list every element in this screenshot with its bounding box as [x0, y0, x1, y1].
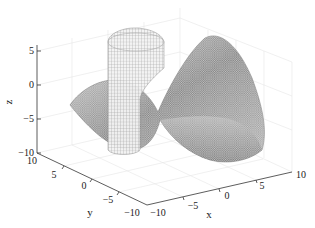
z-tick-label: 0 [29, 79, 34, 90]
x-axis-label: x [206, 208, 212, 220]
x-tick-label: −5 [188, 200, 199, 211]
y-tick-label: 0 [82, 180, 87, 191]
z-tick-label: 5 [29, 45, 34, 56]
z-tick-label: −5 [23, 113, 34, 124]
surface-plot-3d: 5 0 −5 −10 z 10 5 0 −5 −10 y −10 −5 0 5 … [0, 0, 315, 228]
y-ticks [62, 166, 119, 195]
y-tick-label: −10 [124, 207, 140, 218]
x-tick-label: 10 [296, 169, 306, 180]
figure: 5 0 −5 −10 z 10 5 0 −5 −10 y −10 −5 0 5 … [0, 0, 315, 228]
y-tick-label: 5 [52, 169, 57, 180]
y-tick-labels: 10 5 0 −5 −10 [27, 155, 140, 218]
y-axis-label: y [87, 206, 93, 218]
y-tick-label: 10 [27, 155, 37, 166]
y-tick-label: −5 [103, 194, 114, 205]
x-tick-label: 5 [260, 180, 265, 191]
z-ticks [37, 51, 41, 153]
x-tick-label: −10 [150, 207, 166, 218]
z-tick-labels: 5 0 −5 −10 [18, 45, 34, 158]
x-tick-label: 0 [225, 190, 230, 201]
cylinder-surface [108, 28, 164, 155]
x-axis-line [147, 172, 292, 205]
z-axis-label: z [2, 99, 14, 104]
x-tick-labels: −10 −5 0 5 10 [150, 169, 306, 218]
x-ticks [183, 180, 257, 200]
